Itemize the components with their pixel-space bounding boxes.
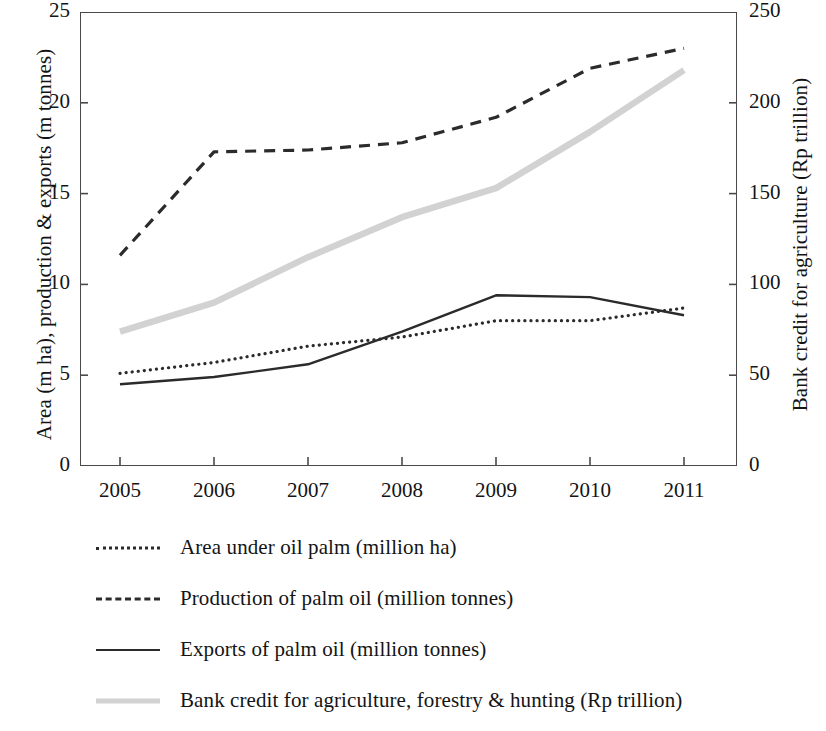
legend-item-label: Area under oil palm (million ha)	[180, 535, 457, 560]
legend-line-swatch	[92, 692, 164, 710]
series-line	[120, 48, 684, 255]
legend-item-label: Exports of palm oil (million tonnes)	[180, 637, 486, 662]
right-tick-label: 0	[749, 452, 803, 477]
right-tick-label: 200	[749, 89, 803, 114]
axis-tick-marks	[80, 103, 737, 466]
legend-line-swatch	[92, 641, 164, 659]
left-tick-label: 15	[26, 180, 70, 205]
x-tick-label: 2009	[456, 478, 536, 503]
x-tick-label: 2006	[174, 478, 254, 503]
left-tick-label: 0	[26, 452, 70, 477]
legend-item-label: Production of palm oil (million tonnes)	[180, 586, 513, 611]
x-tick-label: 2010	[550, 478, 630, 503]
left-tick-label: 25	[26, 0, 70, 23]
data-series-layer	[120, 48, 684, 384]
chart-legend: Area under oil palm (million ha)Producti…	[92, 522, 812, 726]
left-axis-title: Area (m ha), production & exports (m ton…	[32, 15, 57, 475]
legend-item: Bank credit for agriculture, forestry & …	[92, 675, 812, 726]
chart-figure: Area (m ha), production & exports (m ton…	[0, 0, 826, 731]
legend-line-swatch	[92, 539, 164, 557]
right-tick-label: 100	[749, 270, 803, 295]
legend-item: Production of palm oil (million tonnes)	[92, 573, 812, 624]
x-tick-label: 2005	[80, 478, 160, 503]
series-line	[120, 308, 684, 373]
right-tick-label: 250	[749, 0, 803, 23]
x-tick-label: 2011	[644, 478, 724, 503]
x-tick-label: 2007	[268, 478, 348, 503]
series-line	[120, 70, 684, 332]
legend-line-swatch	[92, 590, 164, 608]
plot-area	[80, 12, 737, 466]
legend-item-label: Bank credit for agriculture, forestry & …	[180, 688, 682, 713]
left-tick-label: 10	[26, 270, 70, 295]
legend-item: Exports of palm oil (million tonnes)	[92, 624, 812, 675]
right-tick-label: 150	[749, 180, 803, 205]
legend-swatch-line	[96, 698, 160, 703]
legend-swatch-line	[96, 597, 160, 600]
x-tick-label: 2008	[362, 478, 442, 503]
legend-swatch-line	[96, 649, 160, 651]
left-tick-label: 20	[26, 89, 70, 114]
left-tick-label: 5	[26, 361, 70, 386]
legend-swatch-line	[96, 546, 160, 549]
right-tick-label: 50	[749, 361, 803, 386]
right-axis-title: Bank credit for agriculture (Rp trillion…	[788, 15, 813, 475]
legend-item: Area under oil palm (million ha)	[92, 522, 812, 573]
